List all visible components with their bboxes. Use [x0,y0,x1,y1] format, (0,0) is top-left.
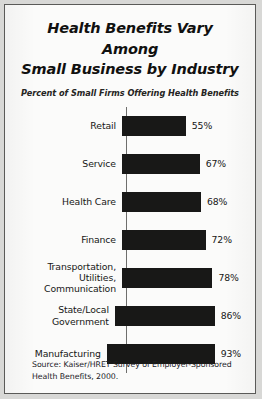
bar-chart: Retail55%Service67%Health Care68%Finance… [19,107,241,375]
bar [122,230,206,250]
bar-track: 72% [122,221,241,259]
bar-value-label: 72% [212,234,232,245]
source-note-line-1: Source: Kaiser/HRET Survey of Employer-S… [32,359,241,371]
bar-value-label: 67% [206,158,226,169]
bar-category-label: Retail [19,120,122,131]
bar-category-label-line: Manufacturing [19,348,101,359]
source-note-line-2: Health Benefits, 2000. [32,371,241,383]
bar-category-label-line: Transportation, [19,261,116,272]
bar-row: Retail55% [19,107,241,145]
bar-category-label-line: Government [19,316,109,327]
chart-subtitle: Percent of Small Firms Offering Health B… [19,88,241,98]
bar-track: 67% [122,145,241,183]
bar-row: State/LocalGovernment86% [19,297,241,335]
bar-category-label-line: Health Care [19,196,116,207]
bar-row: Service67% [19,145,241,183]
bar-rows: Retail55%Service67%Health Care68%Finance… [19,107,241,373]
chart-title: Health Benefits Vary Among Small Busines… [19,5,241,80]
bar-row: Transportation,Utilities,Communication78… [19,259,241,297]
figure-content: Health Benefits Vary Among Small Busines… [5,5,255,393]
bar [122,154,200,174]
bar-value-label: 55% [192,120,212,131]
bar-row: Health Care68% [19,183,241,221]
bar [115,306,215,326]
bar [122,116,186,136]
bar-category-label: Finance [19,234,122,245]
bar-track: 86% [115,297,241,335]
bar-category-label-line: State/Local [19,304,109,315]
source-note: Source: Kaiser/HRET Survey of Employer-S… [32,359,241,382]
bar-category-label: Health Care [19,196,122,207]
bar-category-label: Service [19,158,122,169]
bar-category-label-line: Utilities, [19,272,116,283]
bar-track: 68% [122,183,241,221]
bar-category-label: State/LocalGovernment [19,304,115,327]
bar-value-label: 93% [221,348,241,359]
bar-category-label-line: Communication [19,283,116,294]
bar-category-label-line: Retail [19,120,116,131]
bar-track: 55% [122,107,241,145]
chart-figure-page: Health Benefits Vary Among Small Busines… [4,4,256,394]
bar-value-label: 68% [207,196,227,207]
bar-category-label-line: Service [19,158,116,169]
bar [122,268,212,288]
bar-category-label: Manufacturing [19,348,107,359]
chart-title-line-2: Small Business by Industry [19,59,241,80]
bar-value-label: 86% [221,310,241,321]
chart-title-line-1: Health Benefits Vary Among [19,18,241,59]
bar [122,192,201,212]
bar-category-label: Transportation,Utilities,Communication [19,261,122,295]
bar-row: Finance72% [19,221,241,259]
bar-track: 78% [122,259,241,297]
bar-category-label-line: Finance [19,234,116,245]
bar-value-label: 78% [218,272,238,283]
